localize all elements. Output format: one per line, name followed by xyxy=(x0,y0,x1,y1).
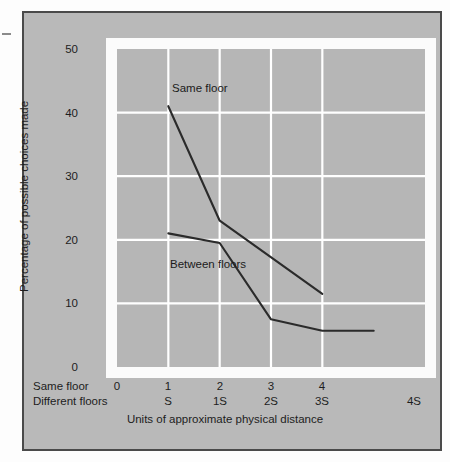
plot-area xyxy=(117,49,425,367)
x-tick-same-floor-1: 1 xyxy=(165,380,171,392)
x-tick-same-floor-2: 2 xyxy=(217,380,223,392)
x-tick-different-floors-s: S xyxy=(164,395,172,407)
x-tick-different-floors-4s: 4S xyxy=(407,395,421,407)
scanned-page: Same floor Between floors 50 40 30 20 10… xyxy=(0,0,450,462)
x-tick-different-floors-2s: 2S xyxy=(264,395,278,407)
y-tick-10: 10 xyxy=(65,297,78,309)
y-tick-0: 0 xyxy=(72,361,78,373)
y-tick-40: 40 xyxy=(65,107,78,119)
y-tick-50: 50 xyxy=(65,43,78,55)
series-annotation-between-floors: Between floors xyxy=(170,258,246,270)
x-tick-same-floor-0: 0 xyxy=(114,380,120,392)
x-axis-row-label-different-floors: Different floors xyxy=(33,395,108,407)
series-annotation-same-floor: Same floor xyxy=(172,82,228,94)
x-tick-same-floor-4: 4 xyxy=(319,380,325,392)
x-axis-title: Units of approximate physical distance xyxy=(0,413,450,425)
page-margin-tick xyxy=(2,33,11,35)
y-axis-ticks: 50 40 30 20 10 0 xyxy=(44,0,78,462)
chart-svg xyxy=(117,49,425,367)
x-tick-different-floors-3s: 3S xyxy=(315,395,329,407)
y-axis-title: Percentage of possible choices made xyxy=(18,112,30,292)
x-axis-row-label-same-floor: Same floor xyxy=(33,380,89,392)
y-tick-30: 30 xyxy=(65,170,78,182)
x-tick-different-floors-1s: 1S xyxy=(213,395,227,407)
y-tick-20: 20 xyxy=(65,234,78,246)
x-tick-same-floor-3: 3 xyxy=(268,380,274,392)
